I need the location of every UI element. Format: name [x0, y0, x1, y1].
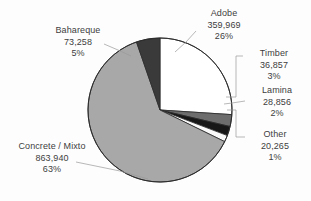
slice-label-lamina-percent: 2%: [246, 108, 308, 120]
slice-label-bahareque: Bahareque 73,258 5%: [38, 25, 118, 60]
pie-chart-figure: Adobe 359,969 26% Bahareque 73,258 5% Ti…: [0, 0, 311, 201]
slice-label-lamina-value: 28,856: [246, 97, 308, 109]
slice-label-adobe: Adobe 359,969 26%: [186, 8, 262, 43]
slice-label-timber-name: Timber: [244, 48, 304, 60]
slice-label-concrete-name: Concrete / Mixto: [6, 141, 98, 153]
slice-label-adobe-name: Adobe: [186, 8, 262, 20]
slice-label-concrete-percent: 63%: [6, 164, 98, 176]
slice-label-timber: Timber 36,857 3%: [244, 48, 304, 83]
slice-label-timber-value: 36,857: [244, 60, 304, 72]
pie-slice-adobe[interactable]: [160, 38, 232, 115]
slice-label-lamina: Lamina 28,856 2%: [246, 85, 308, 120]
slice-label-concrete: Concrete / Mixto 863,940 63%: [6, 141, 98, 176]
slice-label-bahareque-percent: 5%: [38, 48, 118, 60]
slice-label-bahareque-value: 73,258: [38, 37, 118, 49]
slice-label-bahareque-name: Bahareque: [38, 25, 118, 37]
slice-label-concrete-value: 863,940: [6, 153, 98, 165]
slice-label-other: Other 20,265 1%: [246, 129, 304, 164]
pie-slice-group: [88, 38, 232, 182]
slice-label-other-percent: 1%: [246, 152, 304, 164]
slice-label-lamina-name: Lamina: [246, 85, 308, 97]
slice-label-adobe-percent: 26%: [186, 31, 262, 43]
slice-label-adobe-value: 359,969: [186, 20, 262, 32]
slice-label-other-value: 20,265: [246, 141, 304, 153]
slice-label-timber-percent: 3%: [244, 71, 304, 83]
slice-label-other-name: Other: [246, 129, 304, 141]
